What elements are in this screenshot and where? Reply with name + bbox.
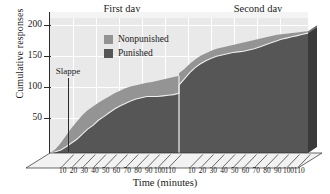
x-tick-label: 110 [294,167,305,174]
x-tick-label: 100 [154,167,165,174]
plot-area [50,18,308,153]
annotation-slappe-label: Slappe [56,66,81,76]
x-tick-label: 90 [145,167,152,174]
x-tick-label: 80 [263,167,270,174]
legend-item-punished: Punished [104,47,169,60]
x-tick-label: 110 [165,167,176,174]
x-tick-label: 80 [134,167,141,174]
legend-swatch-nonpunished [104,35,113,44]
y-axis-line [49,12,50,160]
chart-legend: Nonpunished Punished [104,33,169,61]
x-tick-label: 70 [253,167,260,174]
x-tick-label: 60 [242,167,249,174]
x-tick-label: 60 [113,167,120,174]
x-tick-label: 50 [231,167,238,174]
x-tick-label: 30 [210,167,217,174]
extrusion-face-punished [308,27,317,153]
chart-figure: First day Second day Slappe Nonpunished [0,0,330,194]
x-tick-label: 10 [59,167,66,174]
x-tick-label: 10 [188,167,195,174]
x-tick-label: 20 [70,167,77,174]
y-axis-title: Cumulative responses [14,0,25,119]
y-tick-50 [44,118,51,119]
x-axis-title: Time (minutes) [0,177,330,188]
x-tick-label: 40 [91,167,98,174]
legend-item-nonpunished: Nonpunished [104,33,169,46]
legend-label-nonpunished: Nonpunished [118,35,169,45]
x-tick-label: 20 [199,167,206,174]
annotation-slappe-line [68,78,69,152]
legend-label-punished: Punished [118,49,153,59]
x-tick-label: 40 [220,167,227,174]
x-tick-label: 100 [283,167,294,174]
x-tick-label: 30 [81,167,88,174]
x-tick-label: 90 [274,167,281,174]
x-tick-label: 50 [102,167,109,174]
x-tick-label: 70 [124,167,131,174]
y-tick-200 [44,25,51,26]
y-tick-150 [44,56,51,57]
y-tick-100 [44,87,51,88]
extrusion-face-nonpunished [308,25,317,33]
legend-swatch-punished [104,49,113,58]
